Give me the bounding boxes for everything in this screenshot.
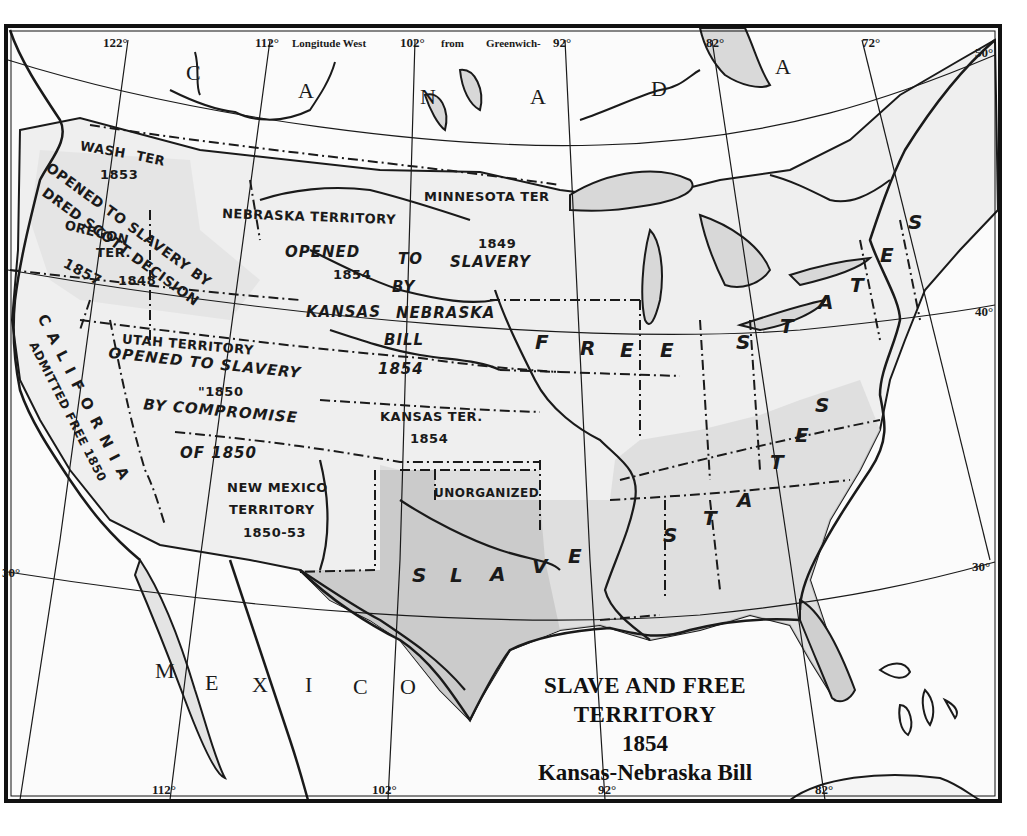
- free-states-letter-3: E: [620, 340, 634, 360]
- free-states-letter-7: A: [818, 292, 833, 312]
- kansas-name: KANSAS TER.: [380, 410, 483, 423]
- nebraska-opened: OPENED: [285, 245, 360, 260]
- slave-states-letter-11: S: [815, 395, 829, 415]
- lat-50: 50°: [975, 46, 993, 59]
- lon-82-bottom: 82°: [815, 783, 833, 796]
- free-states-letter-6: T: [780, 316, 794, 336]
- map-title-subtitle: Kansas-Nebraska Bill: [500, 761, 790, 784]
- free-states-letter-4: E: [660, 340, 674, 360]
- slave-states-letter-5: E: [568, 546, 582, 566]
- canada-letter-5: D: [651, 78, 668, 100]
- lat-30-left: 30°: [2, 566, 20, 579]
- lon-112-top: 112°: [255, 36, 279, 49]
- free-states-letter-8: T: [850, 275, 864, 295]
- free-states-letter-2: R: [580, 338, 595, 358]
- lon-112-bottom: 112°: [152, 783, 176, 796]
- oregon-name-b: TER.: [96, 246, 131, 259]
- canada-letter-2: A: [298, 80, 315, 102]
- map-title-year: 1854: [500, 732, 790, 755]
- lat-40: 40°: [975, 305, 993, 318]
- lon-72-top: 72°: [862, 36, 880, 49]
- lat-30-right: 30°: [972, 560, 990, 573]
- utah-year-quote: "1850: [198, 385, 243, 398]
- nebraska-kansas: KANSAS: [306, 305, 381, 320]
- canada-letter-6: A: [775, 56, 792, 78]
- free-states-letter-9: E: [880, 245, 894, 265]
- lon-82-top: 82°: [706, 36, 724, 49]
- nebraska-to: TO: [398, 252, 423, 267]
- new-mexico-year: 1850-53: [243, 526, 306, 539]
- minnesota-year: 1849: [478, 237, 516, 250]
- historical-map: 122° 112° Longitude West 102° from Green…: [0, 0, 1027, 836]
- longitude-caption-b: from: [441, 38, 464, 49]
- canada-letter-1: C: [186, 62, 202, 84]
- slave-states-letter-3: A: [490, 564, 505, 584]
- slave-states-letter-2: L: [450, 565, 463, 585]
- nebraska-bill: BILL: [384, 333, 424, 348]
- mexico-letter-6: O: [400, 676, 417, 698]
- slave-states-letter-4: V: [532, 556, 547, 576]
- utah-of-1850: OF 1850: [180, 446, 257, 461]
- map-title-line1: SLAVE AND FREE: [500, 674, 790, 697]
- minnesota-name: MINNESOTA TER: [424, 190, 550, 203]
- longitude-caption-c: Greenwich-: [486, 38, 541, 49]
- mexico-letter-1: M: [155, 660, 176, 682]
- mexico-letter-4: I: [305, 674, 313, 696]
- nebraska-year: 1854: [333, 268, 371, 281]
- mexico-letter-5: C: [353, 676, 369, 698]
- new-mexico-line1: NEW MEXICO: [227, 481, 328, 494]
- nebraska-nebraska: NEBRASKA: [396, 306, 495, 321]
- slave-states-letter-8: A: [737, 490, 752, 510]
- slave-states-letter-6: S: [663, 525, 677, 545]
- canada-letter-3: N: [420, 86, 437, 108]
- free-states-letter-1: F: [535, 332, 549, 352]
- map-title-block: SLAVE AND FREE TERRITORY 1854 Kansas-Neb…: [500, 674, 790, 784]
- nebraska-by: BY: [392, 280, 415, 295]
- canada-letter-4: A: [530, 86, 547, 108]
- slave-states-letter-10: E: [795, 425, 809, 445]
- kansas-year: 1854: [410, 432, 448, 445]
- map-title-line2: TERRITORY: [500, 703, 790, 726]
- slave-states-letter-7: T: [703, 508, 717, 528]
- oregon-year: 1848: [118, 274, 156, 287]
- lon-92-top: 92°: [553, 36, 571, 49]
- lon-102-top: 102°: [400, 36, 425, 49]
- free-states-letter-5: S: [736, 332, 750, 352]
- unorganized-name: UNORGANIZED: [434, 487, 539, 499]
- longitude-caption-a: Longitude West: [292, 38, 366, 49]
- mexico-letter-3: X: [252, 674, 269, 696]
- lon-102-bottom: 102°: [372, 783, 397, 796]
- nebraska-slavery: SLAVERY: [450, 255, 531, 270]
- free-states-letter-10: S: [908, 212, 922, 232]
- slave-states-letter-9: T: [770, 452, 784, 472]
- lon-122-top: 122°: [103, 36, 128, 49]
- nebraska-bill-year: 1854: [378, 362, 424, 377]
- washington-year: 1853: [100, 168, 138, 181]
- mexico-letter-2: E: [205, 672, 219, 694]
- new-mexico-line2: TERRITORY: [229, 503, 315, 516]
- slave-states-letter-1: S: [412, 565, 426, 585]
